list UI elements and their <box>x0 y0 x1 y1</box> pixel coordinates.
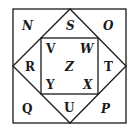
label-u: U <box>64 101 75 115</box>
label-w: W <box>80 42 95 56</box>
diagram-canvas: N S O R T Q U P V W Z Y X <box>0 0 132 128</box>
label-t: T <box>104 60 113 74</box>
label-s: S <box>66 19 75 33</box>
label-x: X <box>82 78 93 92</box>
label-q: Q <box>22 102 32 116</box>
label-z: Z <box>64 60 75 74</box>
label-v: V <box>45 42 56 56</box>
label-p: P <box>100 102 111 116</box>
label-o: O <box>103 19 114 33</box>
label-r: R <box>25 60 36 74</box>
label-y: Y <box>45 78 55 92</box>
label-n: N <box>21 19 34 33</box>
